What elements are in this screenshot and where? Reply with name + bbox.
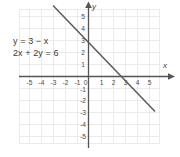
coordinate-plane: x y -5 -4 -3 -2 -1 0 1 2 3 4 5 5 4 3 2 1… — [0, 0, 180, 157]
svg-text:5: 5 — [148, 79, 152, 86]
equation-line-2: 2x + 2y = 6 — [13, 48, 59, 60]
svg-text:5: 5 — [81, 13, 85, 20]
svg-text:-1: -1 — [80, 86, 86, 93]
svg-text:-5: -5 — [80, 133, 86, 140]
svg-text:4: 4 — [136, 79, 140, 86]
svg-text:1: 1 — [100, 79, 104, 86]
equation-annotations: y = 3 − x 2x + 2y = 6 — [13, 36, 59, 59]
svg-text:-2: -2 — [63, 79, 69, 86]
linear-equation-graph: x y -5 -4 -3 -2 -1 0 1 2 3 4 5 5 4 3 2 1… — [0, 0, 180, 157]
svg-text:1: 1 — [81, 61, 85, 68]
x-axis-label: x — [162, 61, 168, 70]
svg-text:2: 2 — [81, 49, 85, 56]
svg-text:-4: -4 — [39, 79, 45, 86]
svg-text:4: 4 — [81, 25, 85, 32]
svg-text:-4: -4 — [80, 121, 86, 128]
svg-text:2: 2 — [112, 79, 116, 86]
svg-text:-3: -3 — [80, 109, 86, 116]
equation-line-1: y = 3 − x — [13, 36, 59, 48]
svg-text:-1: -1 — [75, 79, 81, 86]
svg-text:-5: -5 — [27, 79, 33, 86]
svg-text:-2: -2 — [80, 97, 86, 104]
plotted-line — [53, 6, 155, 112]
svg-text:-3: -3 — [51, 79, 57, 86]
y-axis — [85, 2, 92, 149]
svg-text:0: 0 — [84, 79, 88, 86]
